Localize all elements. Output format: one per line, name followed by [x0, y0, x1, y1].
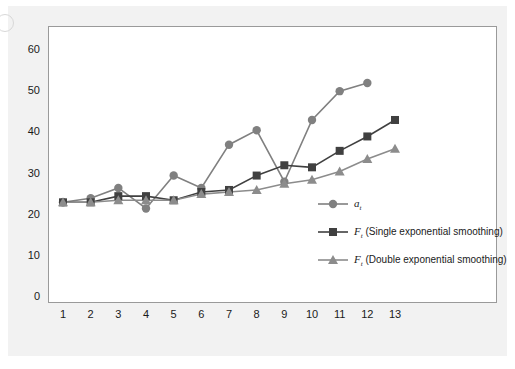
x-axis-tick-13: 13 [385, 308, 405, 320]
y-axis-tick-0: 0 [16, 290, 40, 302]
legend-marker-square-icon [318, 225, 348, 239]
x-axis-tick-9: 9 [274, 308, 294, 320]
y-axis-tick-60: 60 [16, 43, 40, 55]
legend-item-3: Ft (Double exponential smoothing) [318, 246, 507, 274]
x-axis-tick-5: 5 [164, 308, 184, 320]
legend-label-1: at [354, 197, 361, 212]
x-axis-tick-8: 8 [247, 308, 267, 320]
x-axis-tick-11: 11 [330, 308, 350, 320]
x-axis-tick-12: 12 [357, 308, 377, 320]
y-axis-tick-20: 20 [16, 208, 40, 220]
legend-label-2: Ft (Single exponential smoothing) [354, 225, 503, 240]
y-axis-tick-40: 40 [16, 125, 40, 137]
legend-marker-triangle-icon [318, 253, 348, 267]
x-axis-tick-2: 2 [81, 308, 101, 320]
x-axis-tick-3: 3 [108, 308, 128, 320]
chart-legend: atFt (Single exponential smoothing)Ft (D… [318, 190, 507, 274]
y-axis-tick-10: 10 [16, 249, 40, 261]
y-axis-tick-50: 50 [16, 84, 40, 96]
x-axis-tick-4: 4 [136, 308, 156, 320]
x-axis-tick-7: 7 [219, 308, 239, 320]
x-axis-tick-10: 10 [302, 308, 322, 320]
legend-item-2: Ft (Single exponential smoothing) [318, 218, 507, 246]
legend-label-3: Ft (Double exponential smoothing) [354, 253, 507, 268]
x-axis-tick-1: 1 [53, 308, 73, 320]
legend-marker-circle-icon [318, 197, 348, 211]
x-axis-tick-6: 6 [191, 308, 211, 320]
chart-figure: 0102030405060 12345678910111213 atFt (Si… [0, 0, 515, 369]
legend-item-1: at [318, 190, 507, 218]
y-axis-tick-30: 30 [16, 167, 40, 179]
